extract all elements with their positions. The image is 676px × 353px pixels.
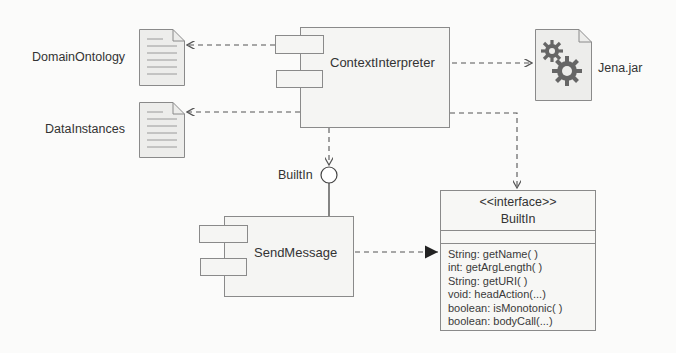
interface-attributes xyxy=(441,231,595,244)
operation: boolean: bodyCall(...) xyxy=(448,315,595,328)
component-port-tab xyxy=(199,225,248,243)
dep-builtin-interface xyxy=(450,113,517,188)
document-icon xyxy=(139,102,185,158)
context-interpreter-name: ContextInterpreter xyxy=(330,55,435,70)
component-port-tab xyxy=(275,35,324,54)
document-icon xyxy=(139,29,185,86)
jena-label: Jena.jar xyxy=(598,61,642,75)
data-instances-label: DataInstances xyxy=(45,122,125,136)
operation: String: getURI( ) xyxy=(448,275,595,288)
builtin-lollipop-label: BuiltIn xyxy=(278,168,313,182)
interface-operations: String: getName( ) int: getArgLength( ) … xyxy=(441,244,595,328)
interface-stereotype: <<interface>> xyxy=(441,194,595,211)
component-port-tab xyxy=(200,258,247,276)
builtin-interface-class[interactable]: <<interface>> BuiltIn String: getName( )… xyxy=(440,190,596,331)
component-port-tab xyxy=(276,70,323,88)
interface-name: BuiltIn xyxy=(441,211,595,228)
builtin-lollipop-icon xyxy=(321,167,337,183)
interface-header: <<interface>> BuiltIn xyxy=(441,191,595,231)
send-message-name: SendMessage xyxy=(254,245,337,260)
operation: int: getArgLength( ) xyxy=(448,261,595,274)
operation: void: headAction(...) xyxy=(448,288,595,301)
gears-icon xyxy=(535,29,592,101)
domain-ontology-label: DomainOntology xyxy=(32,50,125,64)
operation: boolean: isMonotonic( ) xyxy=(448,302,595,315)
operation: String: getName( ) xyxy=(448,248,595,261)
